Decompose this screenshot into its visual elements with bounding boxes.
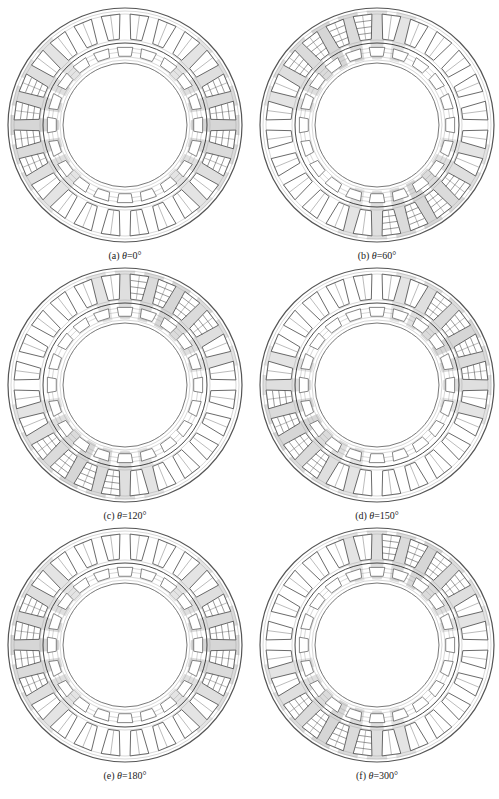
rotor-slot	[369, 567, 385, 576]
rotor-slot	[194, 117, 203, 133]
stator-slot	[271, 594, 300, 617]
panel-caption: (f) θ=300°	[252, 770, 499, 781]
rotor-slot	[369, 714, 385, 723]
stator-slot	[101, 209, 120, 236]
stator-slot	[405, 462, 428, 491]
stator-slot	[454, 74, 483, 97]
rotor-slot	[299, 377, 308, 393]
rotor-slot	[440, 94, 453, 110]
flux-panel-d: (d) θ=150°	[252, 260, 499, 520]
rotor-slot	[194, 637, 203, 653]
rotor-slot	[369, 47, 385, 56]
rotor-slot	[446, 117, 455, 133]
rotor-slot	[94, 188, 110, 201]
stator-slot	[74, 722, 97, 751]
rotor-slot	[117, 454, 133, 463]
rotor-slot	[47, 377, 56, 393]
stator-slot	[130, 534, 149, 561]
rotor-slot	[94, 49, 110, 62]
rotor-slot	[117, 307, 133, 316]
rotor-slot	[446, 377, 455, 393]
stator-slot	[153, 19, 176, 48]
stator-slot	[266, 130, 293, 149]
stator-slot	[74, 19, 97, 48]
rotor-slot	[440, 660, 453, 676]
rotor-slot	[299, 117, 308, 133]
stator-slot	[209, 390, 236, 409]
flux-panel-e: (e) θ=180°	[0, 520, 250, 780]
rotor-slot	[369, 454, 385, 463]
rotor-slot	[369, 194, 385, 203]
stator-slot	[130, 209, 149, 236]
rotor-slot	[117, 567, 133, 576]
rotor-slot	[188, 400, 201, 416]
stator-slot	[14, 361, 41, 380]
stator-slot	[101, 14, 120, 41]
rotor-slot	[301, 140, 314, 156]
rotor-slot	[369, 307, 385, 316]
stator-slot	[461, 650, 488, 669]
flux-panel-f: (f) θ=300°	[252, 520, 499, 780]
stator-slot	[454, 673, 483, 696]
rotor-slot	[446, 637, 455, 653]
rotor-slot	[117, 47, 133, 56]
rotor-slot	[117, 714, 133, 723]
rotor-slot	[346, 309, 362, 322]
stator-slot	[101, 729, 120, 756]
stator-slot	[130, 729, 149, 756]
flux-panel-a: (a) θ=0°	[0, 0, 250, 260]
stator-slot	[266, 621, 293, 640]
stator-slot	[461, 101, 488, 120]
rotor-slot	[140, 569, 156, 582]
rotor-slot	[49, 354, 62, 370]
panel-label: (f)	[356, 770, 369, 781]
theta-value: =180°	[122, 770, 147, 781]
stator-slot	[326, 279, 349, 308]
rotor-slot	[140, 708, 156, 721]
rotor-slot	[194, 377, 203, 393]
stator-slot	[353, 274, 372, 301]
machine-cross-section	[0, 520, 250, 770]
stator-slot	[382, 469, 401, 496]
rotor-slot	[94, 569, 110, 582]
stator-slot	[101, 534, 120, 561]
stator-slot	[74, 202, 97, 231]
machine-cross-section	[0, 0, 250, 250]
rotor-slot	[299, 637, 308, 653]
theta-value: =300°	[373, 770, 398, 781]
rotor-slot	[140, 188, 156, 201]
rotor-slot	[140, 49, 156, 62]
rotor-slot	[301, 614, 314, 630]
rotor-slot	[47, 637, 56, 653]
flux-panel-c: (c) θ=120°	[0, 260, 250, 520]
stator-slot	[153, 539, 176, 568]
rotor-slot	[117, 194, 133, 203]
stator-slot	[202, 413, 231, 436]
machine-cross-section	[0, 260, 250, 510]
machine-cross-section	[252, 0, 499, 250]
rotor-slot	[47, 117, 56, 133]
stator-slot	[271, 153, 300, 176]
panel-caption: (e) θ=180°	[0, 770, 250, 781]
rotor-slot	[392, 448, 408, 461]
stator-slot	[153, 202, 176, 231]
stator-slot	[74, 539, 97, 568]
flux-panel-b: (b) θ=60°	[252, 0, 499, 260]
rotor-slot	[94, 708, 110, 721]
stator-slot	[19, 334, 48, 357]
machine-cross-section	[252, 520, 499, 770]
stator-slot	[153, 722, 176, 751]
panel-label: (e)	[103, 770, 117, 781]
machine-cross-section	[252, 260, 499, 510]
stator-slot	[130, 14, 149, 41]
